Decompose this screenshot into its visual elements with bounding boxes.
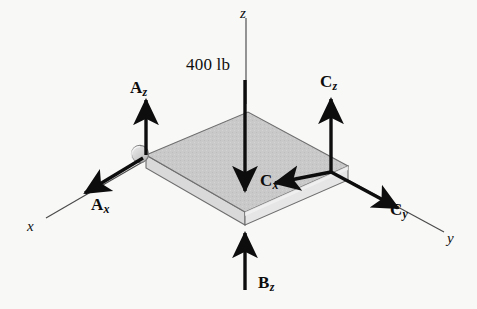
label-Cy-subscript: y — [403, 207, 408, 221]
arrow-Ax — [85, 158, 143, 193]
diagram-canvas — [0, 0, 477, 309]
arrow-Cy — [331, 172, 398, 208]
label-Cz-subscript: z — [333, 79, 338, 93]
label-Ax: Ax — [91, 196, 110, 215]
label-Bz-subscript: z — [270, 280, 275, 294]
label-Cx: Cx — [260, 172, 279, 191]
label-Cx-subscript: x — [273, 178, 279, 192]
label-Az: Az — [130, 79, 147, 98]
label-applied-load: 400 lb — [186, 56, 230, 73]
axis-label-x: x — [27, 219, 34, 234]
label-Cy: Cy — [390, 201, 408, 220]
axis-label-z: z — [240, 6, 246, 21]
label-Cz: Cz — [320, 73, 337, 92]
label-Bz: Bz — [258, 274, 274, 293]
statics-free-body-diagram: Az Ax Bz Cz Cx Cy 400 lb x y z — [0, 0, 477, 309]
plate-body — [146, 112, 348, 225]
label-Ax-subscript: x — [104, 202, 110, 216]
label-Az-subscript: z — [143, 85, 148, 99]
axis-label-y: y — [447, 231, 454, 246]
plate-top-face — [146, 112, 348, 212]
